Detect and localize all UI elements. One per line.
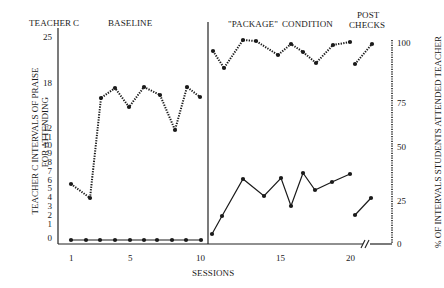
data-point xyxy=(220,214,224,218)
x-axis-title: SESSIONS xyxy=(192,268,234,278)
data-point xyxy=(330,180,334,184)
data-point xyxy=(279,176,283,180)
data-point xyxy=(127,105,131,109)
data-point xyxy=(331,43,335,47)
data-point xyxy=(84,238,88,242)
teacher-id-label: C xyxy=(73,18,79,28)
attention-series-package xyxy=(211,38,352,70)
right-y-tick-label: 75 xyxy=(397,99,406,108)
series-layer xyxy=(69,38,374,242)
data-point xyxy=(353,213,357,217)
data-point xyxy=(88,196,92,200)
teacher-label: TEACHER xyxy=(29,18,71,28)
data-point xyxy=(262,194,266,198)
data-point xyxy=(314,61,318,65)
data-point xyxy=(241,38,245,42)
data-point xyxy=(348,40,352,44)
right-y-tick-label: 0 xyxy=(397,240,402,249)
data-point xyxy=(98,238,102,242)
data-point xyxy=(158,93,162,97)
right-y-tick-label: 50 xyxy=(397,143,406,152)
attention-series-post-checks xyxy=(353,42,374,66)
phase-label-baseline: BASELINE xyxy=(108,18,152,28)
data-point xyxy=(241,177,245,181)
data-point xyxy=(113,86,117,90)
data-point xyxy=(69,238,73,242)
data-point xyxy=(99,96,103,100)
x-tick-label: 15 xyxy=(276,254,285,263)
data-point xyxy=(199,238,203,242)
data-point xyxy=(142,85,146,89)
data-point xyxy=(69,182,73,186)
data-point xyxy=(210,232,214,236)
data-point xyxy=(289,42,293,46)
data-point xyxy=(301,171,305,175)
x-tick-label: 1 xyxy=(69,254,74,263)
right-y-tick-label: 100 xyxy=(397,39,411,48)
attention-series-baseline xyxy=(69,85,202,200)
phase-label-post: POST xyxy=(357,10,379,20)
x-tick-label: 10 xyxy=(196,254,205,263)
left-y-tick-label: 1 xyxy=(36,220,52,229)
right-y-axis-title: % OF INTERVALS STUDENTS ATTENDED TEACHER xyxy=(433,32,443,252)
data-point xyxy=(128,238,132,242)
data-point xyxy=(173,128,177,132)
data-point xyxy=(313,188,317,192)
x-tick-label: 20 xyxy=(346,254,355,263)
data-point xyxy=(198,95,202,99)
phase-label-checks: CHECKS xyxy=(349,20,385,30)
data-point xyxy=(113,238,117,242)
data-point xyxy=(222,66,226,70)
data-point xyxy=(185,85,189,89)
right-y-tick-label: 25 xyxy=(397,197,406,206)
data-point xyxy=(155,238,159,242)
data-point xyxy=(370,42,374,46)
data-point xyxy=(353,62,357,66)
data-point xyxy=(301,50,305,54)
data-point xyxy=(142,238,146,242)
chart-canvas xyxy=(0,0,444,288)
data-point xyxy=(276,53,280,57)
phase-label-package: "PACKAGE" xyxy=(228,19,278,29)
data-point xyxy=(211,49,215,53)
praise-series-package xyxy=(210,171,352,236)
data-point xyxy=(170,238,174,242)
data-point xyxy=(184,238,188,242)
data-point xyxy=(369,196,373,200)
praise-series-baseline xyxy=(69,238,203,242)
left-y-tick-label: 25 xyxy=(36,33,52,42)
data-point xyxy=(254,39,258,43)
data-point xyxy=(348,172,352,176)
praise-series-post-checks xyxy=(353,196,373,217)
left-y-tick-label: 18 xyxy=(36,79,52,88)
data-point xyxy=(289,204,293,208)
x-tick-label: 5 xyxy=(128,254,133,263)
left-y-tick-label: 0 xyxy=(36,234,52,243)
phase-label-condition: CONDITION xyxy=(282,19,333,29)
